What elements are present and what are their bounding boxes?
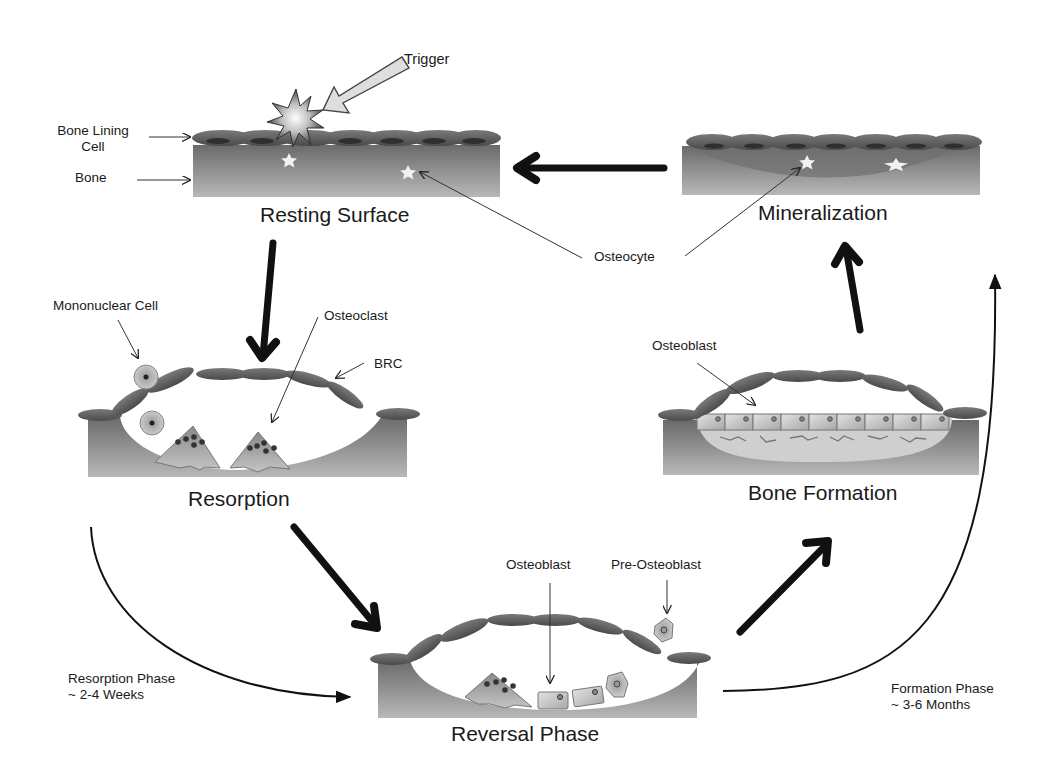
osteoblast-formation-label: Osteoblast	[652, 338, 717, 354]
formation-phase-label: Formation Phase ~ 3-6 Months	[891, 681, 994, 712]
stage-title-bone-formation: Bone Formation	[748, 481, 897, 505]
stage-title-resorption: Resorption	[188, 487, 290, 511]
trigger-arrow-icon	[323, 57, 409, 113]
stage-title-mineralization: Mineralization	[758, 201, 888, 225]
bone-label: Bone	[75, 170, 107, 186]
stage-title-resting-surface: Resting Surface	[260, 203, 409, 227]
arrow-reversal-to-formation	[740, 545, 826, 632]
osteoblast-reversal-label: Osteoblast	[506, 557, 571, 573]
arrow-resting-to-resorption	[263, 243, 273, 356]
arrow-resorption-to-reversal	[294, 527, 376, 626]
resting-surface-illustration	[137, 57, 501, 197]
trigger-label: Trigger	[404, 51, 449, 68]
osteocyte-label: Osteocyte	[594, 249, 655, 265]
resorption-phase-label: Resorption Phase ~ 2-4 Weeks	[68, 671, 175, 702]
formation-phase-duration: ~ 3-6 Months	[891, 697, 994, 713]
resorption-phase-name: Resorption Phase	[68, 671, 175, 687]
bone-formation-illustration	[658, 363, 987, 475]
brc-label: BRC	[374, 356, 403, 372]
pre-osteoblast-label: Pre-Osteoblast	[611, 557, 701, 573]
bone-lining-cell-label-line2: Cell	[48, 139, 138, 155]
bone-lining-cell-label: Bone Lining Cell	[48, 123, 138, 154]
reversal-phase-illustration	[370, 580, 711, 718]
resorption-phase-duration: ~ 2-4 Weeks	[68, 687, 175, 703]
stage-title-reversal-phase: Reversal Phase	[451, 722, 599, 746]
bone-lining-cell-label-line1: Bone Lining	[48, 123, 138, 139]
bone-remodeling-diagram	[0, 0, 1057, 779]
bone-block	[193, 145, 500, 197]
mineralization-illustration	[682, 134, 982, 195]
osteoclast-label: Osteoclast	[324, 308, 388, 324]
formation-phase-name: Formation Phase	[891, 681, 994, 697]
mononuclear-cell-label: Mononuclear Cell	[53, 298, 158, 314]
